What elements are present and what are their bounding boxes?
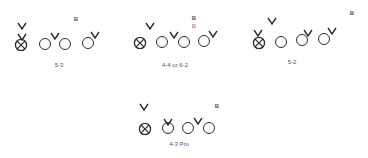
center-icon <box>134 36 147 49</box>
defender-v-icon <box>208 24 218 32</box>
lineman-circle-icon <box>59 38 71 50</box>
back-marker: B <box>215 103 219 109</box>
lineman-circle-icon <box>178 36 190 48</box>
defender-v-icon <box>169 25 179 33</box>
formation-label: 5-3 <box>55 62 64 68</box>
lineman-circle-icon <box>275 36 287 48</box>
center-icon <box>139 122 152 135</box>
defender-v-icon <box>303 23 313 31</box>
defender-v-icon <box>50 26 60 34</box>
formation-label: 4-3 Pro <box>169 141 189 147</box>
defender-v-icon <box>267 11 277 19</box>
defender-v-icon <box>193 111 203 119</box>
defender-v-icon <box>145 16 155 24</box>
defender-v-icon <box>139 97 149 105</box>
defender-v-icon <box>327 21 337 29</box>
back-marker: B <box>74 16 78 22</box>
back-marker: B <box>192 23 196 29</box>
defender-v-icon <box>17 27 27 35</box>
formation-label: 5-2 <box>288 59 297 65</box>
lineman-circle-icon <box>156 36 168 48</box>
defender-v-icon <box>163 112 173 120</box>
back-marker: B <box>350 10 354 16</box>
formation-label: 4-4 or 6-2 <box>162 62 188 68</box>
center-icon <box>253 36 266 49</box>
defender-v-icon <box>17 16 27 24</box>
formations-diagram: B5-3BB4-4 or 6-2B5-2B4-3 Pro <box>0 0 368 158</box>
defender-v-icon <box>90 25 100 33</box>
defender-v-icon <box>253 23 263 31</box>
back-marker: B <box>192 15 196 21</box>
lineman-circle-icon <box>203 122 215 134</box>
